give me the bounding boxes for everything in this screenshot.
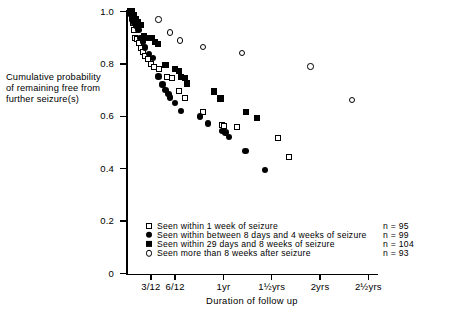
data-point-open-circle — [155, 16, 161, 22]
y-tick-label: 0 — [78, 269, 114, 279]
data-point-filled-circle — [146, 51, 152, 57]
open-circle-icon — [146, 250, 152, 256]
data-point-open-square — [221, 123, 227, 129]
data-point-open-square — [164, 74, 170, 80]
data-point-filled-square — [137, 22, 143, 28]
data-point-filled-square — [129, 8, 135, 14]
data-point-open-circle — [307, 63, 313, 69]
y-axis-title-line-2: of remaining free from — [6, 83, 124, 94]
legend-item: Seen more than 8 weeks after seizure — [145, 249, 367, 258]
data-point-open-square — [234, 124, 240, 130]
data-point-filled-circle — [155, 73, 161, 79]
data-point-filled-square — [162, 62, 168, 68]
data-point-filled-square — [155, 41, 161, 47]
data-point-open-circle — [239, 50, 245, 56]
data-point-filled-square — [243, 109, 249, 115]
y-tick-mark — [120, 273, 126, 274]
x-tick-mark — [223, 275, 224, 280]
data-point-open-circle — [200, 44, 206, 50]
data-point-open-square — [131, 27, 137, 33]
data-point-open-square — [219, 122, 225, 128]
y-tick-label: 1.0 — [78, 7, 114, 17]
x-axis-title: Duration of follow up — [126, 295, 378, 306]
y-tick-label: 0.4 — [78, 164, 114, 174]
data-point-open-square — [129, 15, 135, 21]
data-point-open-circle — [177, 37, 183, 43]
data-point-open-square — [176, 88, 182, 94]
data-point-filled-circle — [172, 100, 178, 106]
data-point-filled-circle — [205, 120, 211, 126]
data-point-filled-circle — [137, 35, 143, 41]
data-point-filled-circle — [129, 17, 135, 23]
data-point-open-square — [151, 64, 157, 70]
data-point-filled-square — [254, 115, 260, 121]
data-point-filled-square — [138, 22, 144, 28]
data-point-filled-circle — [178, 108, 184, 114]
data-point-filled-circle — [142, 44, 148, 50]
x-tick-mark — [174, 275, 175, 280]
data-point-filled-circle — [167, 94, 173, 100]
data-point-open-square — [156, 66, 162, 72]
legend: Seen within 1 week of seizureSeen within… — [145, 221, 367, 258]
survival-curve-figure: Cumulative probability of remaining free… — [0, 0, 450, 312]
data-point-open-square — [134, 36, 140, 42]
y-tick-label: 0.8 — [78, 59, 114, 69]
data-point-filled-circle — [159, 81, 165, 87]
x-tick-mark — [271, 275, 272, 280]
data-point-filled-circle — [219, 128, 225, 134]
data-point-filled-circle — [131, 20, 137, 26]
data-point-filled-square — [149, 35, 155, 41]
data-point-filled-square — [184, 80, 190, 86]
data-point-filled-square — [130, 12, 136, 18]
data-point-filled-circle — [165, 91, 171, 97]
data-point-open-square — [200, 109, 206, 115]
data-point-open-square — [142, 53, 148, 59]
data-point-filled-square — [178, 74, 184, 80]
data-point-open-square — [275, 135, 281, 141]
open-square-icon — [146, 223, 152, 229]
y-tick-label: 0.6 — [78, 111, 114, 121]
data-point-open-circle — [349, 97, 355, 103]
data-point-filled-square — [211, 88, 217, 94]
data-point-filled-square — [144, 35, 150, 41]
data-point-open-square — [182, 95, 188, 101]
legend-marker-filled-square-icon — [145, 239, 157, 248]
x-tick-mark — [150, 275, 151, 280]
data-point-filled-square — [132, 16, 138, 22]
x-axis-line — [126, 274, 378, 276]
y-axis-line — [126, 10, 128, 275]
data-point-open-square — [138, 45, 144, 51]
data-point-filled-square — [182, 75, 188, 81]
data-point-filled-circle — [135, 27, 141, 33]
data-point-filled-square — [176, 68, 182, 74]
data-point-filled-square — [172, 66, 178, 72]
legend-item-label: Seen more than 8 weeks after seizure — [157, 248, 311, 258]
y-tick-mark — [120, 63, 126, 64]
y-tick-label: 0.2 — [78, 216, 114, 226]
data-point-filled-circle — [133, 23, 139, 29]
data-point-filled-circle — [150, 55, 156, 61]
data-point-filled-square — [152, 39, 158, 45]
legend-marker-open-circle-icon — [145, 249, 157, 258]
data-point-filled-square — [141, 33, 147, 39]
x-tick-mark — [319, 275, 320, 280]
data-point-filled-square — [217, 95, 223, 101]
data-point-filled-circle — [127, 11, 133, 17]
data-point-open-square — [132, 35, 138, 41]
data-point-filled-circle — [262, 167, 268, 173]
data-point-open-circle — [167, 29, 173, 35]
data-point-filled-circle — [197, 113, 203, 119]
data-point-filled-circle — [162, 87, 168, 93]
data-point-open-square — [127, 9, 133, 15]
legend-marker-filled-circle-icon — [145, 230, 157, 239]
data-point-filled-circle — [222, 129, 228, 135]
data-point-filled-circle — [242, 148, 248, 154]
y-axis-title-line-3: further seizure(s) — [6, 94, 124, 105]
y-tick-mark — [120, 220, 126, 221]
data-point-open-square — [148, 61, 154, 67]
filled-circle-icon — [146, 232, 152, 238]
y-tick-mark — [120, 11, 126, 12]
filled-square-icon — [146, 241, 152, 247]
x-tick-label: 2½yrs — [338, 281, 398, 292]
data-point-open-square — [286, 154, 292, 160]
